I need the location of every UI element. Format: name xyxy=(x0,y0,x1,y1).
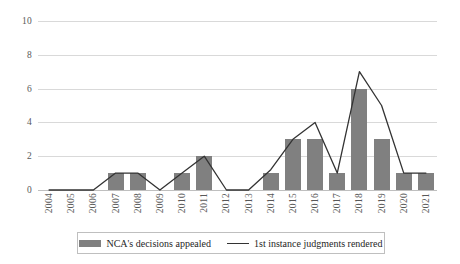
x-tick-label-2008: 2008 xyxy=(133,193,143,213)
y-tick-label-6: 6 xyxy=(27,84,32,94)
x-tick-slot: 2008 xyxy=(127,193,149,229)
x-tick-slot: 2013 xyxy=(238,193,260,229)
legend-label-1st-instance-judgments-rendered: 1st instance judgments rendered xyxy=(254,238,383,249)
y-tick-label-4: 4 xyxy=(27,117,32,127)
x-tick-slot: 2016 xyxy=(304,193,326,229)
y-tick-label-8: 8 xyxy=(27,50,32,60)
x-tick-slot: 2009 xyxy=(149,193,171,229)
y-axis: 0246810 xyxy=(0,21,32,190)
line-swatch-icon xyxy=(227,243,249,244)
x-tick-label-2014: 2014 xyxy=(266,193,276,213)
x-tick-label-2016: 2016 xyxy=(310,193,320,213)
x-tick-label-2007: 2007 xyxy=(111,193,121,213)
x-tick-slot: 2007 xyxy=(105,193,127,229)
x-tick-slot: 2010 xyxy=(171,193,193,229)
plot-area xyxy=(38,21,437,190)
x-tick-label-2017: 2017 xyxy=(332,193,342,213)
x-tick-slot: 2004 xyxy=(38,193,60,229)
x-tick-label-2020: 2020 xyxy=(399,193,409,213)
x-tick-label-2015: 2015 xyxy=(288,193,298,213)
x-tick-label-2011: 2011 xyxy=(199,193,209,213)
x-tick-label-2010: 2010 xyxy=(177,193,187,213)
x-tick-slot: 2017 xyxy=(326,193,348,229)
legend-item-1st-instance-judgments-rendered: 1st instance judgments rendered xyxy=(227,238,383,249)
x-tick-slot: 2020 xyxy=(393,193,415,229)
x-tick-slot: 2005 xyxy=(60,193,82,229)
x-tick-label-2009: 2009 xyxy=(155,193,165,213)
x-tick-label-2018: 2018 xyxy=(354,193,364,213)
x-tick-slot: 2021 xyxy=(415,193,437,229)
y-tick-label-10: 10 xyxy=(22,16,32,26)
x-tick-slot: 2011 xyxy=(193,193,215,229)
x-tick-label-2019: 2019 xyxy=(377,193,387,213)
line-path xyxy=(49,72,426,190)
x-tick-label-2013: 2013 xyxy=(244,193,254,213)
x-tick-label-2021: 2021 xyxy=(421,193,431,213)
x-axis: 2004200520062007200820092010201120122013… xyxy=(38,193,437,229)
x-tick-slot: 2014 xyxy=(260,193,282,229)
y-tick-label-0: 0 xyxy=(27,185,32,195)
x-tick-slot: 2019 xyxy=(371,193,393,229)
chart-legend: NCA's decisions appealed 1st instance ju… xyxy=(77,232,385,254)
x-tick-label-2012: 2012 xyxy=(221,193,231,213)
line-series-1st-instance-judgments-rendered xyxy=(38,21,437,190)
chart-container: 0246810 20042005200620072008200920102011… xyxy=(0,0,460,264)
x-tick-slot: 2012 xyxy=(215,193,237,229)
x-tick-label-2006: 2006 xyxy=(88,193,98,213)
x-tick-label-2004: 2004 xyxy=(44,193,54,213)
legend-label-nca-decisions-appealed: NCA's decisions appealed xyxy=(106,238,211,249)
x-tick-slot: 2006 xyxy=(82,193,104,229)
x-tick-slot: 2015 xyxy=(282,193,304,229)
bar-swatch-icon xyxy=(79,240,101,247)
x-tick-label-2005: 2005 xyxy=(66,193,76,213)
x-tick-slot: 2018 xyxy=(348,193,370,229)
y-tick-label-2: 2 xyxy=(27,151,32,161)
legend-item-nca-decisions-appealed: NCA's decisions appealed xyxy=(79,238,211,249)
